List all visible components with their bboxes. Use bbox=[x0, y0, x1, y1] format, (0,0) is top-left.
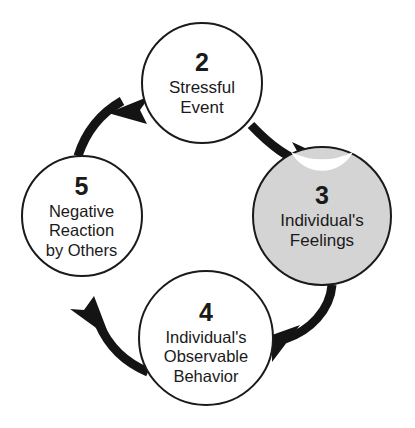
cycle-diagram-canvas bbox=[0, 0, 415, 428]
cycle-diagram: 2 Stressful Event 3 Individual's Feeling… bbox=[0, 0, 415, 428]
node-circle-negative-reaction-by-others[interactable] bbox=[22, 156, 142, 276]
arrow-4-to-5 bbox=[70, 296, 148, 372]
node-circle-stressful-event[interactable] bbox=[142, 23, 262, 143]
node-circle-individuals-observable-behavior[interactable] bbox=[139, 271, 273, 405]
arrow-5-to-2 bbox=[78, 96, 150, 156]
